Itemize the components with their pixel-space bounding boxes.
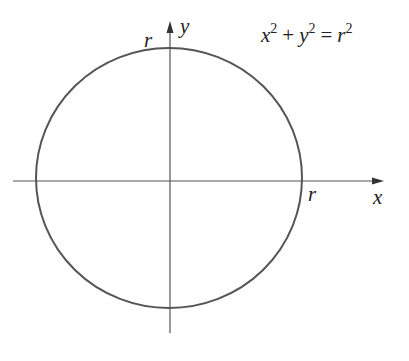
x-axis-label: x — [373, 187, 382, 208]
radius-label-top: r — [144, 30, 152, 51]
equation-equals: = — [321, 23, 333, 47]
equation-x: x — [261, 23, 270, 47]
equation-y: y — [299, 23, 308, 47]
y-axis — [167, 21, 174, 333]
y-axis-label: y — [180, 16, 189, 37]
equation-plus: + — [282, 23, 294, 47]
circle-diagram — [0, 0, 409, 361]
equation-r-exponent: 2 — [346, 21, 353, 36]
circle-equation: x2+y2=r2 — [261, 25, 353, 46]
x-axis — [13, 178, 384, 185]
circle — [36, 48, 302, 308]
y-axis-arrow-icon — [167, 21, 174, 33]
equation-x-exponent: 2 — [270, 21, 277, 36]
equation-r: r — [337, 23, 345, 47]
x-axis-arrow-icon — [372, 178, 384, 185]
equation-y-exponent: 2 — [309, 21, 316, 36]
radius-label-right: r — [308, 184, 316, 205]
